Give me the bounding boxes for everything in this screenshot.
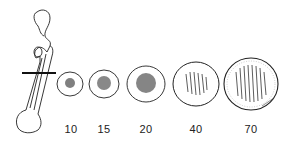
femur-bone bbox=[16, 10, 52, 133]
section-label: 20 bbox=[131, 123, 161, 135]
figure: 10 15 20 40 70 bbox=[0, 0, 281, 146]
section-label: 40 bbox=[181, 123, 211, 135]
cross-section-40 bbox=[173, 62, 219, 106]
section-label: 15 bbox=[89, 123, 119, 135]
section-label: 70 bbox=[236, 123, 266, 135]
cross-section-70 bbox=[224, 58, 278, 110]
cross-section-15 bbox=[89, 70, 119, 98]
cross-section-10 bbox=[57, 72, 83, 96]
cross-section-20 bbox=[127, 66, 165, 102]
section-label: 10 bbox=[56, 123, 86, 135]
